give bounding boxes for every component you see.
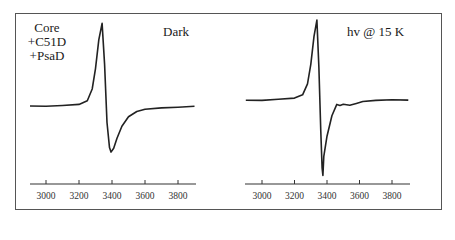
x-tick-label: 3800 [169, 191, 188, 201]
sample-label-line-2: +C51D [22, 35, 72, 49]
x-tick-label: 3400 [318, 191, 337, 201]
x-tick-label: 3400 [103, 191, 122, 201]
x-tick-label: 3000 [253, 191, 272, 201]
spectrum-trace-illuminated [246, 20, 408, 175]
x-tick-label: 3600 [350, 191, 369, 201]
x-tick-label: 3200 [285, 191, 304, 201]
condition-label-dark: Dark [163, 25, 189, 39]
x-axis-right [245, 180, 410, 184]
x-tick-label: 3800 [383, 191, 402, 201]
sample-label-line-3: +PsaD [22, 49, 72, 63]
sample-label: Core +C51D +PsaD [22, 21, 72, 63]
sample-label-line-1: Core [22, 21, 72, 35]
x-tick-label: 3200 [70, 191, 89, 201]
x-tick-label: 3000 [37, 191, 56, 201]
x-axis-left [30, 180, 196, 184]
x-tick-label: 3600 [136, 191, 155, 201]
condition-label-illuminated: hv @ 15 K [347, 25, 404, 39]
